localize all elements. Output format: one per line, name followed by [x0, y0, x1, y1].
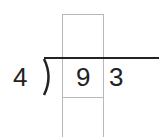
division-bracket-icon	[40, 57, 54, 97]
long-division-diagram: 4 9 3	[0, 0, 159, 137]
divisor: 4	[13, 64, 27, 90]
dividend-box-bottom	[62, 97, 104, 98]
division-bar	[44, 57, 159, 59]
dividend-digit-2: 3	[109, 64, 123, 90]
dividend-digit-1: 9	[76, 64, 90, 90]
